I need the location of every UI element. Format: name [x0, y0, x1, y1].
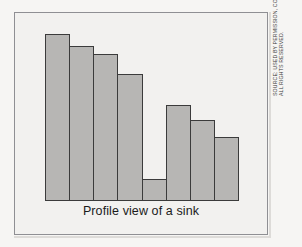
- bar-column-2: [69, 46, 94, 201]
- page-edge-shade-right: [269, 12, 271, 236]
- figure-frame: [14, 12, 268, 235]
- plot-area: [45, 31, 239, 201]
- bar-column-3: [93, 54, 118, 201]
- bar-column-6: [166, 105, 191, 201]
- bar-column-1: [45, 34, 70, 201]
- figure-caption: Profile view of a sink: [14, 204, 268, 218]
- figure-root: Profile view of a sink SOURCE: USED BY P…: [0, 0, 302, 247]
- bar-column-5: [142, 179, 167, 201]
- bar-column-4: [117, 74, 142, 201]
- source-credit: SOURCE: USED BY PERMISSION, COPYRIGHT © …: [272, 0, 284, 96]
- source-credit-line-2: ALL RIGHTS RESERVED.: [278, 0, 284, 96]
- bar-column-7: [190, 120, 215, 201]
- bar-column-8: [214, 137, 239, 201]
- page-edge-shade-bottom: [14, 236, 271, 238]
- bar-series: [45, 31, 239, 201]
